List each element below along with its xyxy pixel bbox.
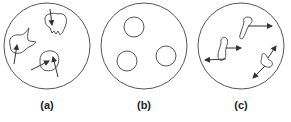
panel-label-a: (a) xyxy=(27,99,67,111)
panel-label-b: (b) xyxy=(124,99,164,111)
outer-circle-c xyxy=(198,3,284,89)
irregular-shape-2 xyxy=(10,28,36,53)
small-circle-2 xyxy=(117,51,137,71)
elongated-shape-3 xyxy=(261,54,272,68)
small-circle-1 xyxy=(124,17,144,37)
arrow-icon xyxy=(14,45,17,64)
arrow-icon xyxy=(53,57,58,77)
outer-circle-b xyxy=(101,3,187,89)
panel-c xyxy=(198,3,284,89)
elongated-shape-2 xyxy=(218,37,228,60)
small-circle-3 xyxy=(156,46,176,66)
arrow-icon xyxy=(50,9,52,25)
arrow-icon xyxy=(253,66,265,78)
elongated-shape-1 xyxy=(240,17,252,39)
irregular-shape-1 xyxy=(45,13,67,35)
panel-label-c: (c) xyxy=(221,99,261,111)
panel-b xyxy=(101,3,187,89)
arrow-icon xyxy=(268,46,276,58)
